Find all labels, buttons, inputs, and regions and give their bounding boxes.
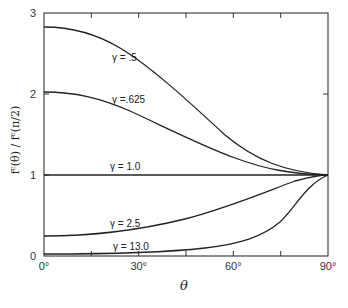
x-tick-0: 0° <box>39 260 50 272</box>
curve-gamma-2.5 <box>44 175 328 236</box>
label-gamma-13.0: γ = 13.0 <box>113 241 149 252</box>
label-gamma-0.5: γ = .5 <box>112 52 137 63</box>
figure-caption-cutoff <box>4 300 344 308</box>
label-gamma-1.0: γ = 1.0 <box>110 161 141 172</box>
plot-frame <box>44 13 328 256</box>
x-tick-90: 90° <box>320 260 337 272</box>
y-tick-3: 3 <box>30 7 36 19</box>
label-gamma-0.625: γ =.625 <box>112 94 146 105</box>
y-tick-1: 1 <box>30 169 36 181</box>
svg-text:fc(θ) / fc(π/2): fc(θ) / fc(π/2) <box>9 106 22 174</box>
x-tick-30: 30° <box>130 260 147 272</box>
curve-gamma-13.0 <box>44 175 328 254</box>
label-gamma-2.5: γ = 2.5 <box>110 218 141 229</box>
curve-gamma-0.625 <box>44 92 328 175</box>
y-ticks <box>44 94 328 175</box>
y-tick-0: 0 <box>30 250 36 262</box>
curve-gamma-0.5 <box>44 27 328 175</box>
curves <box>44 27 328 254</box>
x-tick-60: 60° <box>225 260 242 272</box>
line-chart: 0 1 2 3 0° 30° 60° 90° θ fc(θ) / fc(π/2)… <box>0 0 348 308</box>
y-tick-2: 2 <box>30 88 36 100</box>
y-axis-title: fc(θ) / fc(π/2) <box>9 106 22 174</box>
x-axis-title: θ <box>180 278 188 293</box>
